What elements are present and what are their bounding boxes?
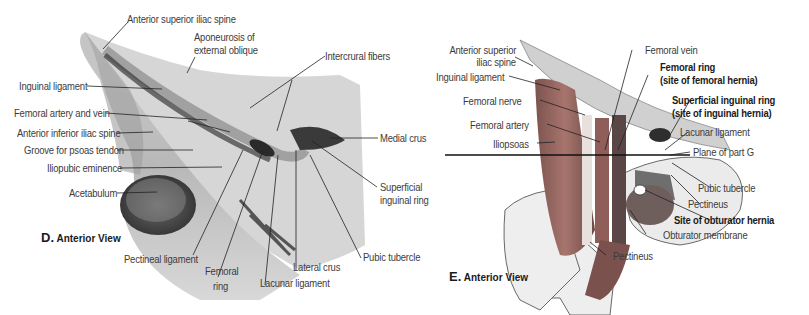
caption-text: Anterior View	[464, 272, 528, 283]
label-aponeurosis-line2: external oblique	[194, 44, 258, 56]
caption-text: Anterior View	[56, 233, 120, 244]
label-e-femoral-ring-line1: Femoral ring	[660, 61, 715, 73]
label-aponeurosis-line1: Aponeurosis of	[194, 31, 255, 43]
label-inguinal-ligament: Inguinal ligament	[19, 80, 87, 92]
label-intercrural-fibers: Intercrural fibers	[325, 50, 390, 62]
label-anterior-inferior-iliac-spine: Anterior inferior iliac spine	[17, 127, 121, 139]
label-iliopubic-eminence: Iliopubic eminence	[47, 162, 122, 174]
label-e-pectineus-lower: Pectineus	[613, 250, 653, 262]
panel-d-anterior-view: Anterior superior iliac spine Aponeurosi…	[0, 0, 420, 315]
label-e-pubic-tubercle: Pubic tubercle	[698, 182, 755, 194]
label-groove-for-psoas-tendon: Groove for psoas tendon	[24, 144, 124, 156]
label-e-asis-line1: Anterior superior	[449, 44, 516, 56]
label-e-plane-of-part-g: Plane of part G	[693, 146, 754, 158]
label-e-femoral-nerve: Femoral nerve	[463, 95, 522, 107]
label-e-superficial-ring-line1: Superficial inguinal ring	[672, 94, 775, 106]
label-anterior-superior-iliac-spine: Anterior superior iliac spine	[127, 13, 236, 25]
label-superficial-ring-line1: Superficial	[380, 181, 422, 193]
label-e-lacunar-ligament: Lacunar ligament	[680, 126, 750, 138]
label-pubic-tubercle: Pubic tubercle	[363, 251, 420, 263]
label-femoral-artery-and-vein: Femoral artery and vein	[14, 107, 110, 119]
caption-letter: D.	[41, 230, 54, 245]
label-pectineal-ligament: Pectineal ligament	[124, 253, 198, 265]
caption-letter: E.	[449, 269, 461, 284]
label-lateral-crus: Lateral crus	[293, 261, 340, 273]
label-e-femoral-ring-line2: (site of femoral hernia)	[660, 74, 758, 86]
panel-d-caption: D. Anterior View	[41, 230, 121, 245]
label-e-asis-line2: iliac spine	[476, 56, 516, 68]
panel-e-caption: E. Anterior View	[449, 269, 528, 284]
label-e-superficial-ring-line2: (site of inguinal hernia)	[672, 107, 771, 119]
label-e-site-of-obturator-hernia: Site of obturator hernia	[674, 214, 774, 226]
label-femoral-ring-line2: ring	[213, 280, 228, 292]
label-e-inguinal-ligament: Inguinal ligament	[436, 71, 504, 83]
label-lacunar-ligament: Lacunar ligament	[260, 277, 330, 289]
label-e-femoral-artery: Femoral artery	[470, 119, 529, 131]
label-e-iliopsoas: Iliopsoas	[493, 138, 529, 150]
label-e-pectineus-upper: Pectineus	[688, 198, 728, 210]
panel-e-anterior-view: Anterior superior iliac spine Inguinal l…	[420, 0, 809, 315]
label-e-obturator-membrane: Obturator membrane	[663, 229, 747, 241]
label-acetabulum: Acetabulum	[69, 187, 117, 199]
label-e-femoral-vein: Femoral vein	[645, 44, 697, 56]
label-femoral-ring-line1: Femoral	[205, 265, 238, 277]
